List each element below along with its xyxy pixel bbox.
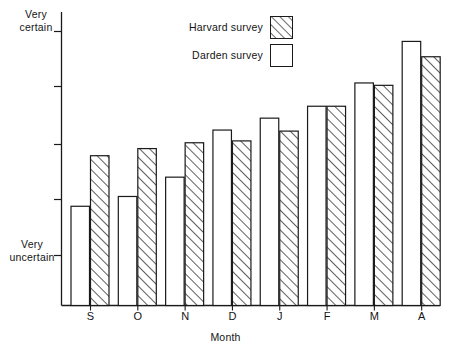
bar-harvard-s	[91, 156, 110, 306]
x-tick-label-d: D	[220, 310, 244, 322]
y-axis-high-label-line1: Very	[25, 8, 47, 20]
bar-darden-s	[71, 206, 90, 305]
y-axis-ticks	[54, 32, 62, 256]
bar-harvard-j	[280, 131, 299, 305]
bar-darden-m	[355, 83, 374, 306]
y-axis-low-label: Veryuncertain	[6, 238, 58, 263]
y-axis-low-label-line1: Very	[21, 238, 43, 250]
bar-darden-f	[308, 106, 327, 305]
bar-darden-d	[213, 130, 232, 305]
x-tick-label-n: N	[173, 310, 197, 322]
x-tick-label-o: O	[126, 310, 150, 322]
bar-harvard-o	[138, 149, 157, 306]
x-tick-label-s: S	[79, 310, 103, 322]
x-tick-label-j: J	[268, 310, 292, 322]
legend-label-darden-survey: Darden survey	[192, 49, 263, 61]
x-tick-label-f: F	[315, 310, 339, 322]
y-axis-high-label: Verycertain	[14, 8, 58, 33]
bar-harvard-m	[374, 85, 393, 305]
bar-harvard-f	[327, 106, 346, 305]
bar-darden-n	[166, 177, 185, 305]
bar-darden-o	[118, 196, 137, 305]
y-axis-low-label-line2: uncertain	[10, 251, 55, 263]
bars-layer	[71, 41, 440, 305]
legend-label-harvard-survey: Harvard survey	[189, 21, 263, 33]
bar-darden-a	[402, 41, 421, 305]
open-swatch-icon	[270, 44, 293, 67]
bar-harvard-a	[422, 57, 441, 306]
bar-harvard-d	[232, 141, 251, 306]
bar-harvard-n	[185, 143, 204, 306]
bar-chart-figure: Verycertain Veryuncertain SONDJFMA Month…	[0, 0, 451, 352]
legend-item-harvard-survey: Harvard survey	[168, 16, 293, 38]
hatched-swatch-icon	[270, 16, 293, 39]
bar-darden-j	[260, 118, 279, 305]
x-axis-title: Month	[0, 331, 451, 343]
x-tick-label-a: A	[410, 310, 434, 322]
x-tick-label-m: M	[362, 310, 386, 322]
chart-legend: Harvard survey Darden survey	[168, 16, 293, 72]
y-axis-high-label-line2: certain	[20, 21, 53, 33]
legend-item-darden-survey: Darden survey	[168, 44, 293, 66]
